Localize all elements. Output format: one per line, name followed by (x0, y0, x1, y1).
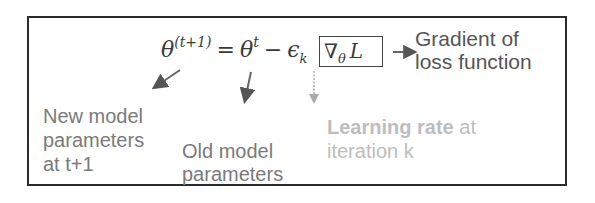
old-params-label: Old model parameters (182, 140, 283, 186)
learning-rate-line1: Learning rate at (327, 115, 476, 139)
learning-rate-bold: Learning rate (327, 116, 454, 138)
old-params-line1: Old model (182, 140, 283, 163)
gradient-label-line1: Gradient of (415, 27, 532, 50)
new-params-label: New model parameters at t+1 (43, 104, 144, 176)
arrow-to-new-params (155, 70, 180, 87)
new-params-line2: parameters (43, 128, 144, 152)
new-params-line3: at t+1 (43, 152, 144, 176)
gradient-label: Gradient of loss function (415, 27, 532, 73)
new-params-line1: New model (43, 104, 144, 128)
learning-rate-line2: iteration k (327, 139, 476, 163)
gradient-label-line2: loss function (415, 50, 532, 73)
arrow-to-old-params (245, 72, 251, 100)
learning-rate-label: Learning rate at iteration k (327, 115, 476, 163)
old-params-line2: parameters (182, 163, 283, 186)
learning-rate-rest: at (454, 116, 476, 138)
